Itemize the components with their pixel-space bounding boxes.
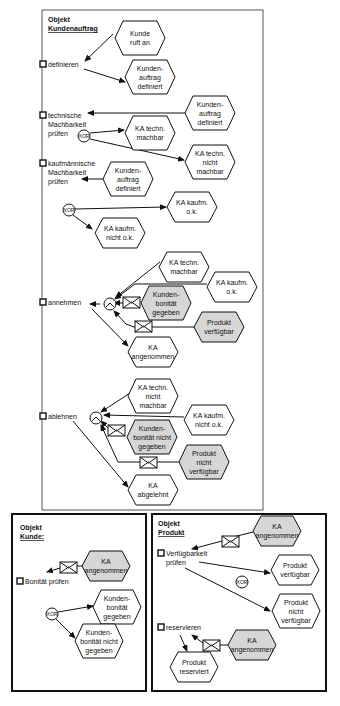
event-label: bonität nicht	[133, 434, 171, 441]
event-e17: Produktnichtverfügbar	[179, 445, 229, 479]
event-e12: Produktverfügbar	[194, 312, 244, 342]
event-label: definiert	[116, 185, 141, 192]
function-label: ablehnen	[48, 413, 77, 420]
epc-diagram: Objekt Kundenauftrag Objekt Kunde: Objek…	[0, 0, 340, 706]
message-icon	[222, 536, 239, 547]
event-label: Produkt	[182, 659, 206, 666]
event-label: verfügbar	[189, 468, 219, 476]
svg-text:XOR: XOR	[47, 611, 58, 617]
connector-and-icon	[104, 298, 116, 310]
event-hexagon	[167, 192, 217, 222]
event-label: machbar	[170, 268, 198, 275]
event-e13: KAangenommen	[128, 337, 178, 367]
event-label: Kunden-	[197, 101, 224, 108]
event-hexagon	[184, 405, 234, 435]
function-f1: definieren	[40, 61, 79, 68]
event-label: KA kaufm.	[104, 225, 136, 232]
event-e15: KA kaufm.nicht o.k.	[184, 405, 234, 435]
event-label: Kunden-	[137, 65, 164, 72]
object-label: Objekt	[158, 520, 180, 528]
message-icon	[60, 562, 77, 573]
event-label: nicht	[197, 459, 212, 466]
event-label: Produkt	[207, 319, 231, 326]
message-icon	[140, 457, 157, 468]
function-label: Machbarkeit	[48, 169, 86, 176]
event-pe3: Produktnichtverfügbar	[272, 594, 320, 628]
function-square-icon	[158, 624, 164, 630]
object-label: Objekt	[48, 16, 70, 24]
event-label: gegeben	[152, 309, 179, 317]
event-e2: Kunden-auftragdefiniert	[125, 60, 175, 94]
event-label: KA kaufm.	[176, 199, 208, 206]
function-label: kaufmännische	[48, 160, 95, 167]
event-hexagon	[128, 337, 178, 367]
event-label: Produkt	[283, 562, 307, 569]
function-square-icon	[40, 61, 46, 67]
event-label: bonität	[155, 300, 176, 307]
connector-xor-icon: XOR	[78, 130, 90, 142]
svg-text:XOR: XOR	[79, 133, 90, 139]
event-hexagon	[253, 516, 301, 546]
event-label: KA techn.	[195, 150, 225, 157]
event-pe2: Produktverfügbar	[271, 555, 319, 585]
event-label: verfügbar	[204, 328, 234, 336]
event-label: gegeben	[85, 647, 112, 655]
function-square-icon	[158, 550, 164, 556]
function-label: reservieren	[166, 624, 201, 631]
event-e4: KA techn.machbar	[125, 116, 175, 150]
object-name-kunde: Kunde:	[20, 533, 44, 540]
event-label: KA	[272, 523, 282, 530]
function-square-icon	[40, 413, 46, 419]
event-label: verfügbar	[281, 617, 311, 625]
function-square-icon	[40, 112, 46, 118]
event-label: auftrag	[139, 74, 161, 82]
event-hexagon	[159, 252, 209, 282]
event-label: abgelehnt	[138, 491, 169, 499]
event-label: Produkt	[192, 450, 216, 457]
event-e18: KAabgelehnt	[128, 475, 178, 505]
event-e9: KA techn.machbar	[159, 252, 209, 282]
object-name-produkt: Produkt	[158, 529, 185, 536]
function-label: Bonität prüfen	[25, 578, 69, 586]
event-hexagon	[82, 551, 130, 581]
event-label: nicht o.k.	[106, 234, 134, 241]
function-p2: reservieren	[158, 624, 201, 631]
event-e5: KA techn.nichtmachbar	[185, 145, 235, 179]
event-hexagon	[125, 116, 175, 150]
event-e16: Kunden-bonität nichtgegeben	[127, 420, 177, 454]
event-label: KA kaufm.	[216, 279, 248, 286]
event-ke2: Kunden-bonitätgegeben	[93, 590, 141, 624]
event-label: Kunden-	[86, 629, 113, 636]
event-label: nicht o.k.	[195, 421, 223, 428]
event-ke3: Kunden-bonität nichtgegeben	[75, 624, 123, 658]
function-k1: Bonität prüfen	[17, 578, 69, 586]
function-label: Verfügbarkeit	[166, 550, 207, 558]
event-label: Produkt	[284, 599, 308, 606]
event-label: KA	[101, 558, 111, 565]
event-label: bonität	[106, 604, 127, 611]
event-e14: KA techn.nichtmachbar	[128, 379, 178, 413]
event-label: nicht	[289, 608, 304, 615]
svg-text:XOR: XOR	[64, 207, 75, 213]
function-label: definieren	[48, 61, 79, 68]
event-hexagon	[95, 218, 145, 248]
event-ke1: KAangenommen	[82, 551, 130, 581]
event-hexagon	[128, 475, 178, 505]
event-label: Kunden-	[115, 167, 142, 174]
event-e1: Kunderuft an	[115, 21, 165, 55]
event-label: angenommen	[256, 532, 299, 540]
event-label: KA	[148, 482, 158, 489]
function-square-icon	[17, 578, 23, 584]
object-label: Objekt	[20, 524, 42, 532]
event-label: definiert	[138, 83, 163, 90]
event-label: gegeben	[138, 443, 165, 451]
connector-xor-icon: XOR	[46, 608, 58, 620]
function-label: annehmen	[48, 299, 81, 306]
connector-xor-icon: XOR	[63, 204, 75, 216]
event-label: KA	[247, 637, 257, 644]
function-label: Machbarkeit	[48, 121, 86, 128]
event-label: o.k.	[226, 288, 237, 295]
event-hexagon	[115, 21, 165, 55]
event-e8: KA kaufm.nicht o.k.	[95, 218, 145, 248]
event-label: nicht	[203, 159, 218, 166]
